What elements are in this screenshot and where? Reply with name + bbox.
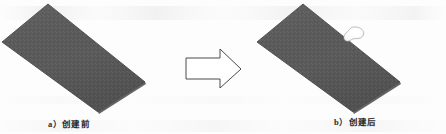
caption-panel-after: b）创建后 — [334, 115, 377, 127]
pocket-feature — [344, 27, 364, 41]
arrow-right-icon — [186, 49, 241, 88]
caption-panel-before: a）创建前 — [48, 117, 90, 129]
panel-before-plate — [2, 4, 146, 114]
diagram-canvas — [0, 0, 446, 134]
figure-container: a）创建前 b）创建后 — [0, 0, 446, 134]
panel-after-plate — [257, 4, 401, 114]
transformation-arrow — [186, 49, 241, 88]
